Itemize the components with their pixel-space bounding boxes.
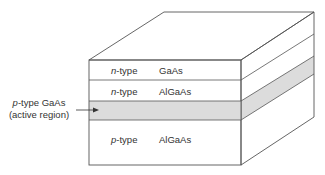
active-region-side-shading [241, 56, 314, 120]
layer-1-material: GaAs [159, 66, 183, 76]
layer-2-material: AlGaAs [159, 87, 191, 97]
callout-line-2: (active region) [2, 109, 76, 121]
callout-line-1: p-type GaAs [2, 97, 76, 109]
active-region-callout: p-type GaAs (active region) [2, 97, 76, 121]
layer-4-material: AlGaAs [159, 135, 191, 145]
block-top-face [89, 12, 314, 60]
active-region-front [89, 101, 241, 120]
layer-1-doping: n-type [111, 66, 137, 76]
layer-4-doping: p-type [111, 135, 137, 145]
layer-2-doping: n-type [111, 87, 137, 97]
